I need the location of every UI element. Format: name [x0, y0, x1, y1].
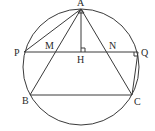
right-angle-mark-H: [81, 48, 85, 52]
geometry-diagram: A P M H N Q B C: [0, 0, 155, 131]
label-A: A: [77, 0, 85, 8]
right-angle-mark-Q: [134, 52, 137, 56]
label-C: C: [134, 96, 141, 107]
label-B: B: [22, 95, 29, 106]
label-N: N: [109, 40, 116, 51]
label-Q: Q: [141, 47, 149, 58]
label-M: M: [45, 40, 54, 51]
label-H: H: [77, 54, 84, 65]
label-P: P: [14, 47, 20, 58]
